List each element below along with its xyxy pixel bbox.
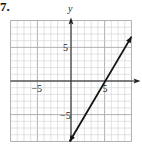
x-tick-label: −5 [31,83,42,94]
x-axis-label: x [141,75,142,86]
y-tick-label: 5 [63,42,68,53]
graphed-line [70,37,132,142]
coordinate-plane: xy−555−5 [0,0,142,145]
y-tick-label: −5 [60,110,71,121]
y-axis-label: y [67,3,73,14]
